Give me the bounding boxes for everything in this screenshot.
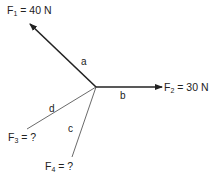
- force-subscript: 3: [14, 137, 18, 144]
- segment-label-c: c: [68, 124, 73, 134]
- force-subscript: 2: [170, 87, 174, 94]
- force-subscript: 4: [51, 166, 55, 173]
- segment-label-d: d: [49, 104, 55, 114]
- force-label-f1: F1 = 40 N: [7, 5, 51, 17]
- segment-label-b: b: [120, 91, 126, 101]
- force-line-f4: [72, 87, 96, 157]
- force-value: = ?: [21, 131, 36, 143]
- force-value: = 40 N: [20, 4, 51, 16]
- force-label-f3: F3 = ?: [8, 132, 36, 144]
- force-label-f4: F4 = ?: [45, 161, 73, 173]
- force-label-f2: F2 = 30 N: [164, 82, 208, 94]
- force-value: = 30 N: [177, 81, 208, 93]
- segment-label-a: a: [81, 57, 87, 67]
- force-subscript: 1: [13, 10, 17, 17]
- force-line-f3: [27, 87, 96, 129]
- force-value: = ?: [58, 160, 73, 172]
